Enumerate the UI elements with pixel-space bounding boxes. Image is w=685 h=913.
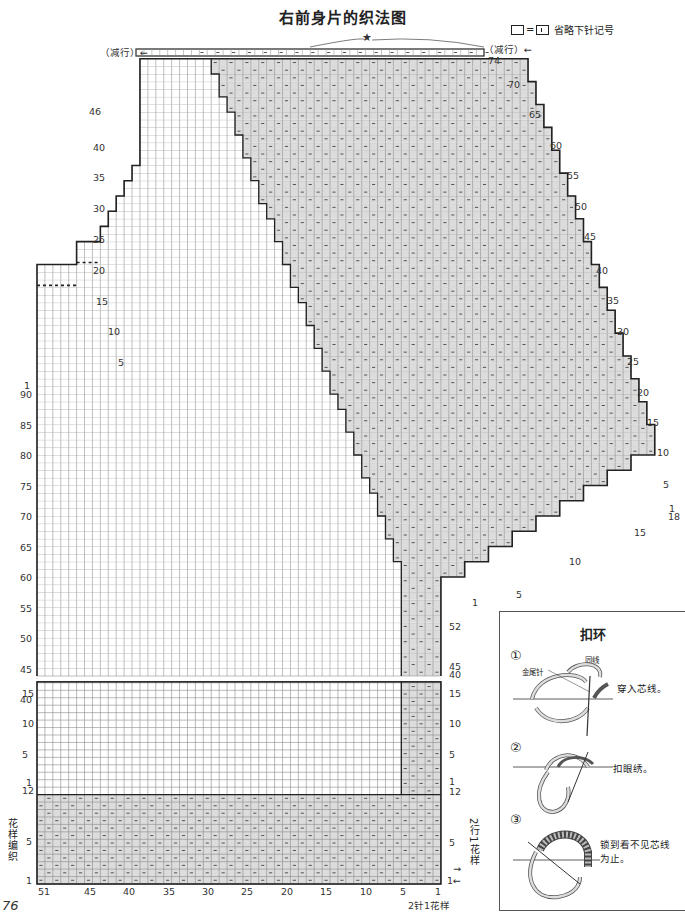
stitch-label-5: 5 [400, 887, 406, 897]
right-pattern-row-1: 1← [447, 876, 461, 886]
right-lower-row-5: 5 [449, 750, 455, 760]
right-pattern-row-12: 12 [449, 787, 461, 797]
stitch-label-30: 30 [202, 887, 214, 897]
left-shoulder-row-30: 30 [93, 204, 105, 214]
right-neck-row-55: 55 [567, 171, 579, 181]
stitch-label-40: 40 [123, 887, 135, 897]
left-body-row-80: 80 [20, 451, 32, 461]
stitch-label-15: 15 [320, 887, 332, 897]
stitch-label-25: 25 [241, 887, 253, 897]
right-neck-row-35: 35 [607, 296, 619, 306]
left-shoulder-row-35: 35 [93, 173, 105, 183]
right-band-row-40: 40 [449, 670, 461, 680]
left-pattern-row-12: 12 [22, 786, 34, 796]
left-shoulder-row-10: 10 [108, 327, 120, 337]
left-shoulder-row-46: 46 [89, 107, 101, 117]
right-pattern-arrow: → [453, 864, 461, 874]
right-neck-row-10: 10 [657, 448, 669, 458]
left-body-row-50: 50 [20, 634, 32, 644]
step-3-text: 锁到看不见芯线为止。 [600, 838, 670, 866]
right-neck-row-40: 40 [596, 266, 608, 276]
right-neck-row-50: 50 [575, 202, 587, 212]
pattern-note-repeat: 2针1花样 [408, 901, 450, 911]
left-body-row-45: 45 [20, 665, 32, 675]
right-decrease-label: （减行）← [484, 45, 532, 55]
row-label-74: 74 [488, 56, 500, 66]
page-number: 76 [2, 898, 19, 913]
stitch-label-10: 10 [360, 887, 372, 897]
right-neck-row-70: 70 [508, 80, 520, 90]
step-3-illustration [508, 822, 603, 907]
stitch-label-45: 45 [84, 887, 96, 897]
instructions-title: 扣环 [500, 624, 685, 643]
right-edge-row-5: 5 [516, 590, 522, 600]
right-neck-row-5: 5 [663, 480, 669, 490]
stitch-label-51: 51 [38, 887, 50, 897]
right-edge-row-18: 18 [668, 512, 680, 522]
left-body-row-75: 75 [20, 482, 32, 492]
star-icon: ★ [362, 32, 372, 43]
right-pattern-row-5: 5 [449, 838, 455, 848]
left-band-row-15: 15 [22, 689, 34, 699]
left-shoulder-row-25: 25 [93, 235, 105, 245]
right-lower-row-15: 15 [449, 689, 461, 699]
right-neck-row-60: 60 [550, 141, 562, 151]
right-neck-row-15: 15 [647, 418, 659, 428]
left-shoulder-row-40: 40 [93, 143, 105, 153]
left-pattern-row-1: 1 [26, 876, 32, 886]
left-shoulder-row-20: 20 [93, 266, 105, 276]
pattern-note-rows: 2行1花样 [466, 818, 481, 866]
left-band-row-10: 10 [22, 719, 34, 729]
right-edge-row-10: 10 [569, 557, 581, 567]
stitch-label-1: 1 [435, 887, 441, 897]
left-body-row-65: 65 [20, 543, 32, 553]
step-2-illustration [508, 742, 618, 822]
right-neck-row-30: 30 [617, 327, 629, 337]
left-body-row-90: 90 [20, 390, 32, 400]
right-lower-row-10: 10 [449, 719, 461, 729]
right-neck-row-25: 25 [627, 357, 639, 367]
left-pattern-row-5: 5 [26, 837, 32, 847]
stitch-label-35: 35 [163, 887, 175, 897]
left-body-row-70: 70 [20, 512, 32, 522]
left-body-row-85: 85 [20, 421, 32, 431]
right-neck-row-65: 65 [529, 110, 541, 120]
left-shoulder-row-15: 15 [96, 297, 108, 307]
right-neck-row-20: 20 [637, 388, 649, 398]
right-edge-row-15: 15 [634, 528, 646, 538]
step-1-illustration [508, 652, 618, 742]
step-2-text: 扣眼绣。 [613, 762, 653, 776]
left-band-row-5: 5 [22, 750, 28, 760]
step-1-text: 穿入芯线。 [617, 682, 667, 696]
pattern-note-left: 花样编织 [4, 818, 19, 862]
left-body-row-55: 55 [20, 604, 32, 614]
stitch-label-20: 20 [281, 887, 293, 897]
left-shoulder-row-5: 5 [118, 358, 124, 368]
right-edge-row-1: 1 [472, 598, 478, 608]
button-loop-instructions: 扣环 ① 同线 金尾针 穿入芯线。 ② 扣眼绣。 ③ 锁到看不见芯线为止。 [499, 611, 685, 911]
left-decrease-label: （减行）← [100, 48, 148, 58]
right-band-row-52: 52 [449, 622, 461, 632]
right-neck-row-45: 45 [584, 232, 596, 242]
left-body-row-60: 60 [20, 573, 32, 583]
